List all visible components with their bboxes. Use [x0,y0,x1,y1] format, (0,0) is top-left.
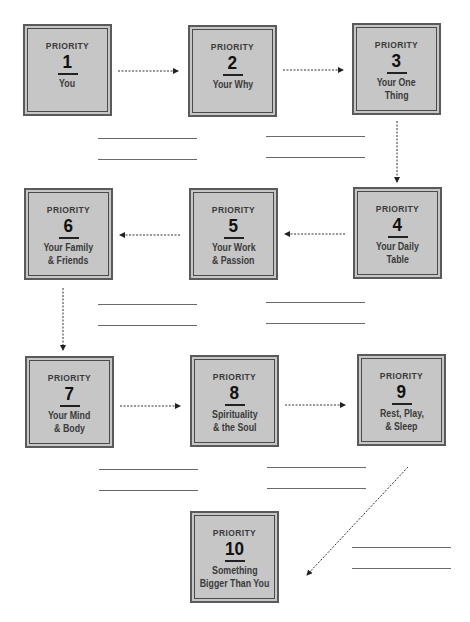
priority-title-line-1: Spirituality [212,409,257,421]
priority-box-10: PRIORITY 10 Something Bigger Than You [190,511,279,603]
priority-title-line-1: Your Work [212,242,256,254]
priority-box-9: PRIORITY 9 Rest, Play, & Sleep [357,354,446,446]
priority-label: PRIORITY [213,528,256,538]
priority-box-1: PRIORITY 1 You [23,24,112,116]
underline [59,237,79,239]
underline [60,405,80,407]
write-in-line [98,325,197,326]
priority-number: 10 [225,540,244,558]
underline [388,236,408,238]
priority-number: 5 [229,217,239,235]
priority-label: PRIORITY [375,40,418,50]
priority-title-line-1: Your One [377,77,416,89]
priority-number: 6 [64,217,74,235]
priority-box-2: PRIORITY 2 Your Why [188,25,277,117]
underline [225,404,245,406]
priority-label: PRIORITY [212,205,255,215]
underline [225,560,245,562]
underline [392,403,412,405]
write-in-line [266,323,365,324]
priority-number: 9 [397,383,407,401]
priority-number: 4 [393,216,403,234]
priority-box-6: PRIORITY 6 Your Family & Friends [24,188,113,280]
write-in-line [98,304,197,305]
priority-label: PRIORITY [47,205,90,215]
write-in-line [98,159,197,160]
priority-number: 7 [65,385,75,403]
write-in-line [266,302,365,303]
write-in-line [267,488,366,489]
priority-label: PRIORITY [46,41,89,51]
write-in-line [266,157,365,158]
underline [387,72,407,74]
priority-box-7: PRIORITY 7 Your Mind & Body [25,356,114,448]
write-in-line [352,547,451,548]
write-in-line [352,568,451,569]
write-in-line [99,469,198,470]
priority-title: You [60,78,76,90]
priority-label: PRIORITY [213,372,256,382]
priority-number: 1 [63,53,73,71]
priority-box-8: PRIORITY 8 Spirituality & the Soul [190,355,279,447]
underline [58,73,78,75]
priority-title-line-2: & Passion [212,255,255,267]
priority-title-line-1: Your Daily [376,241,419,253]
priority-box-4: PRIORITY 4 Your Daily Table [353,187,442,279]
priority-label: PRIORITY [380,371,423,381]
write-in-line [98,138,197,139]
arrow-9-to-10 [307,467,408,575]
write-in-line [99,490,198,491]
priority-title-line-2: Bigger Than You [200,578,270,590]
priority-number: 3 [392,52,402,70]
priority-title: Your Why [212,79,252,91]
priority-number: 8 [230,384,240,402]
priority-title-line-2: & Body [54,423,85,435]
priority-title-line-2: & the Soul [213,422,257,434]
priority-title-line-2: Thing [385,90,409,102]
priority-title-line-1: Your Family [44,242,94,254]
priority-title-line-2: Table [386,254,408,266]
priority-number: 2 [228,54,238,72]
underline [224,237,244,239]
priority-box-5: PRIORITY 5 Your Work & Passion [189,188,278,280]
priority-title-line-2: & Friends [48,255,89,267]
priority-title-line-1: Something [212,565,257,577]
priority-title-line-1: Rest, Play, [380,408,424,420]
priority-title-line-1: Your Mind [48,410,90,422]
underline [223,74,243,76]
priority-label: PRIORITY [211,42,254,52]
write-in-line [267,467,366,468]
priority-label: PRIORITY [48,373,91,383]
priority-label: PRIORITY [376,204,419,214]
priority-title-line-2: & Sleep [385,421,417,433]
write-in-line [266,136,365,137]
priority-box-3: PRIORITY 3 Your One Thing [352,23,441,115]
